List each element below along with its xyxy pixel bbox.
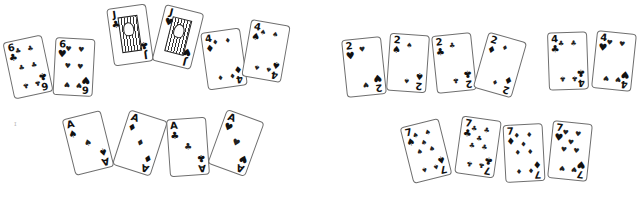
diamonds-pip-icon: ♦ bbox=[491, 77, 499, 85]
playing-card-4-of-hearts[interactable]: 4♥4♥♥♥♥♥ bbox=[591, 30, 637, 92]
card-pips: ♦♦♦♦ bbox=[212, 37, 236, 81]
clubs-pip-icon: ♣ bbox=[572, 74, 579, 81]
spades-pip-icon: ♠ bbox=[253, 62, 260, 70]
hearts-pip-icon: ♥ bbox=[65, 46, 72, 53]
spades-pip-icon: ♠ bbox=[83, 139, 93, 148]
card-pips: ♠♠♠♠♠♠♠ bbox=[412, 128, 440, 173]
card-rank: 2 bbox=[465, 78, 473, 90]
hearts-pip-icon: ♥ bbox=[571, 165, 578, 173]
jack-portrait bbox=[117, 15, 142, 53]
card-pips: ♦♦♦♦♦♦♦ bbox=[514, 132, 534, 175]
clubs-pip-icon: ♣ bbox=[184, 143, 193, 151]
card-pips: ♥♥♥♥♥♥ bbox=[64, 46, 84, 89]
hearts-pip-icon: ♥ bbox=[64, 63, 71, 70]
diamonds-pip-icon: ♦ bbox=[528, 166, 535, 173]
clubs-pip-icon: ♣ bbox=[27, 45, 35, 53]
playing-card-A-of-spades[interactable]: A♠A♠♠ bbox=[62, 110, 115, 176]
diamonds-pip-icon: ♦ bbox=[216, 73, 223, 81]
clubs-pip-icon: ♣ bbox=[570, 40, 577, 47]
clubs-pip-icon: ♣ bbox=[476, 135, 483, 143]
playing-card-A-of-clubs[interactable]: A♣A♣♣ bbox=[166, 117, 210, 178]
card-pips: ♠ bbox=[74, 120, 102, 165]
clubs-pip-icon: ♣ bbox=[452, 76, 459, 84]
playing-card-6-of-hearts[interactable]: 6♥6♥♥♥♥♥♥♥ bbox=[53, 37, 96, 97]
hearts-pip-icon: ♥ bbox=[575, 131, 582, 139]
clubs-pip-icon: ♣ bbox=[466, 159, 473, 167]
clubs-pip-icon: ♣ bbox=[483, 127, 490, 135]
card-pips: ♠♠ bbox=[398, 41, 419, 84]
clubs-pip-icon: ♣ bbox=[481, 144, 488, 152]
playing-card-J-of-hearts[interactable]: J♥J♥ bbox=[152, 4, 205, 70]
card-rank: 6 bbox=[82, 84, 90, 95]
playing-card-2-of-spades[interactable]: 2♠2♠♠♠ bbox=[386, 33, 430, 94]
hearts-pip-icon: ♥ bbox=[77, 64, 84, 71]
card-rank: 7 bbox=[576, 169, 584, 181]
playing-card-2-of-diamonds[interactable]: 2♦2♦♦♦ bbox=[473, 32, 527, 99]
playing-card-2-of-clubs[interactable]: 2♣2♣♣♣ bbox=[431, 32, 477, 94]
playing-card-A-of-hearts[interactable]: A♥A♥♥ bbox=[207, 109, 264, 177]
diamonds-pip-icon: ♦ bbox=[135, 138, 145, 147]
hearts-pip-icon: ♥ bbox=[619, 41, 626, 49]
clubs-pip-icon: ♣ bbox=[449, 42, 456, 50]
hearts-pip-icon: ♥ bbox=[231, 138, 241, 147]
playing-card-4-of-spades[interactable]: 4♠4♠♠♠♠♠ bbox=[241, 19, 290, 83]
diamonds-pip-icon: ♦ bbox=[212, 39, 219, 47]
playing-card-6-of-clubs[interactable]: 6♣6♣♣♣♣♣♣♣ bbox=[2, 34, 53, 99]
card-rank: 2 bbox=[415, 81, 423, 92]
card-pips: ♣♣♣♣ bbox=[558, 40, 577, 83]
card-rank: 7 bbox=[534, 169, 542, 180]
playing-card-4-of-clubs[interactable]: 4♣4♣♣♣♣♣ bbox=[547, 31, 589, 90]
diamonds-pip-icon: ♦ bbox=[515, 166, 522, 173]
hearts-pip-icon: ♥ bbox=[615, 75, 622, 83]
diamonds-pip-icon: ♦ bbox=[224, 38, 231, 46]
spades-pip-icon: ♠ bbox=[428, 145, 436, 153]
playing-card-4-of-diamonds[interactable]: 4♦4♦♦♦♦♦ bbox=[200, 27, 248, 90]
card-pips: ♥♥ bbox=[353, 45, 375, 89]
clubs-pip-icon: ♣ bbox=[18, 64, 26, 72]
spades-pip-icon: ♠ bbox=[403, 76, 410, 83]
playing-card-7-of-clubs[interactable]: 7♣7♣♣♣♣♣♣♣♣ bbox=[454, 115, 502, 178]
playing-card-7-of-spades[interactable]: 7♠7♠♠♠♠♠♠♠♠ bbox=[400, 118, 453, 184]
hearts-pip-icon: ♥ bbox=[558, 163, 565, 171]
spades-pip-icon: ♠ bbox=[271, 32, 278, 40]
diamonds-pip-icon: ♦ bbox=[513, 133, 520, 140]
diamonds-pip-icon: ♦ bbox=[229, 71, 236, 79]
clubs-pip-icon: ♣ bbox=[22, 81, 30, 89]
card-pips: ♣♣ bbox=[443, 41, 465, 85]
spades-pip-icon: ♠ bbox=[412, 132, 420, 140]
playing-card-A-of-diamonds[interactable]: A♦A♦♦ bbox=[112, 109, 168, 177]
hearts-pip-icon: ♥ bbox=[606, 40, 613, 48]
playing-card-2-of-hearts[interactable]: 2♥2♥♥♥ bbox=[341, 36, 387, 98]
hearts-pip-icon: ♥ bbox=[602, 73, 609, 81]
spades-pip-icon: ♠ bbox=[416, 148, 424, 156]
playing-card-7-of-diamonds[interactable]: 7♦7♦♦♦♦♦♦♦♦ bbox=[503, 123, 546, 183]
playing-card-7-of-hearts[interactable]: 7♥7♥♥♥♥♥♥♥♥ bbox=[547, 120, 593, 182]
hearts-pip-icon: ♥ bbox=[562, 130, 569, 138]
spades-pip-icon: ♠ bbox=[259, 29, 266, 37]
diamonds-pip-icon: ♦ bbox=[501, 45, 509, 53]
card-rank: 2 bbox=[375, 82, 383, 94]
spades-pip-icon: ♠ bbox=[406, 43, 413, 50]
card-rank: J bbox=[143, 50, 148, 61]
hearts-pip-icon: ♥ bbox=[573, 148, 580, 156]
clubs-pip-icon: ♣ bbox=[558, 41, 565, 48]
diamonds-pip-icon: ♦ bbox=[527, 149, 534, 156]
hearts-pip-icon: ♥ bbox=[567, 139, 574, 147]
hearts-pip-icon: ♥ bbox=[63, 80, 70, 87]
card-pips: ♣♣♣♣♣♣ bbox=[15, 45, 41, 90]
stray-mark: ɪ bbox=[14, 120, 17, 128]
spades-pip-icon: ♠ bbox=[420, 139, 428, 147]
clubs-pip-icon: ♣ bbox=[470, 126, 477, 134]
hearts-pip-icon: ♥ bbox=[359, 46, 366, 54]
clubs-pip-icon: ♣ bbox=[15, 48, 23, 56]
card-rank: 4 bbox=[620, 79, 628, 91]
clubs-pip-icon: ♣ bbox=[30, 62, 38, 70]
diamonds-pip-icon: ♦ bbox=[514, 150, 521, 157]
playing-card-J-of-clubs[interactable]: J♣J♣ bbox=[106, 3, 154, 66]
card-rank: A bbox=[198, 163, 206, 175]
diamonds-pip-icon: ♦ bbox=[526, 132, 533, 139]
clubs-pip-icon: ♣ bbox=[559, 74, 566, 81]
hearts-pip-icon: ♥ bbox=[78, 47, 85, 54]
diamonds-pip-icon: ♦ bbox=[520, 141, 527, 148]
clubs-pip-icon: ♣ bbox=[468, 142, 475, 150]
